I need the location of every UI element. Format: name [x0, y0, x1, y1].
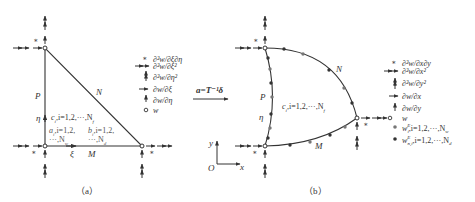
node-w-icon [43, 46, 47, 50]
legend-b-item-7: wEn,i,i=1,2,···,Nd [402, 135, 452, 146]
star-icon: * [143, 56, 147, 64]
vertex-bottom-left-dofs: * [13, 144, 47, 178]
caption-a: （a） [76, 184, 98, 197]
svg-text:*: * [150, 150, 154, 158]
edge-label-p: P [35, 92, 41, 101]
b-edge-label-m: M [315, 142, 323, 151]
xy-axes [217, 141, 240, 164]
nodes-n [282, 47, 353, 104]
legend-b-item-1: ∂²w/∂x² [402, 67, 426, 76]
legend-a-item-5: w [153, 106, 158, 115]
figure-canvas: * * * * [0, 0, 475, 202]
vertex-top-dofs: * [13, 16, 47, 50]
b-edge-label-p: P [260, 93, 266, 102]
legend-b-item-2: ∂²w/∂y² [402, 79, 426, 88]
transform-label: a=T⁻¹δ [196, 86, 223, 95]
legend-a-item-2: ∂²w/∂η² [153, 73, 177, 82]
origin-label: O [208, 164, 215, 173]
axis-label-eta: η [36, 114, 40, 123]
legend-b-item-5: w [402, 114, 407, 123]
b-vertex-bottom-left-dofs: * [235, 144, 267, 178]
panel-b: * * * [217, 16, 398, 178]
legend-b-item-3: ∂w/∂x [402, 92, 421, 101]
b-axis-label-eta: η [259, 113, 263, 122]
svg-text:*: * [364, 122, 368, 130]
edge-label-m: M [88, 150, 96, 159]
panel-a: * * * * [13, 16, 228, 178]
b-vertex-top-dofs: * [235, 16, 267, 50]
legend-a-item-1: ∂²w/∂ξ² [153, 62, 177, 71]
edge-nodes-a-label-line2: ···,Nw [49, 136, 68, 146]
legend-a-item-3: ∂w/∂ξ [153, 85, 172, 94]
svg-text:*: * [253, 150, 257, 158]
edge-label-n: N [96, 88, 102, 97]
legend-a-symbols: * [135, 56, 149, 112]
vertex-bottom-right-dofs: * [140, 144, 172, 178]
svg-text:*: * [254, 38, 258, 46]
legend-b-item-6: wEi,i=1,2,···,Nw [402, 123, 449, 134]
caption-b: （b） [304, 184, 327, 197]
interior-nodes-c-label: ci,i=1,2,···,Nf [51, 114, 94, 124]
svg-text:*: * [32, 150, 36, 158]
legend-b-item-4: ∂w/∂y [402, 104, 421, 113]
svg-text:*: * [34, 38, 38, 46]
legend-b-symbols: * [384, 60, 398, 141]
b-edge-label-n: N [336, 65, 342, 74]
y-axis-label: y [209, 139, 213, 148]
b-vertex-right-dofs: * [355, 116, 392, 150]
edge-nodes-b-label-line2: ···,Nd [88, 136, 106, 146]
legend-a-item-4: ∂w/∂η [153, 96, 172, 105]
nodes-p [266, 56, 273, 139]
x-axis-label: x [240, 163, 244, 172]
b-interior-nodes-label: ci,i=1,2,···,Nf [282, 103, 325, 113]
svg-text:*: * [392, 60, 396, 68]
axis-label-xi: ξ [70, 150, 74, 159]
